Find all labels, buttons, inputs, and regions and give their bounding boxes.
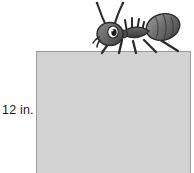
ant-eye-highlight <box>112 30 114 32</box>
gray-rectangle <box>36 51 191 173</box>
height-dimension-label: 12 in. <box>2 103 34 117</box>
math-figure: 12 in. <box>0 0 194 173</box>
ant-illustration <box>86 0 192 55</box>
ant-thorax <box>126 27 149 37</box>
